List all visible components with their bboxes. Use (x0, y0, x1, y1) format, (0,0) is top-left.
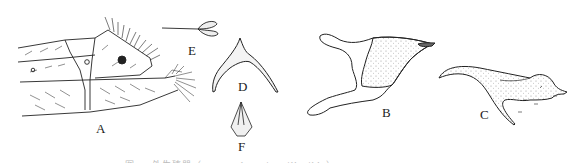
panel-label-e: E (188, 44, 196, 57)
panel-label-b: B (382, 106, 391, 119)
figure-drawings (0, 0, 583, 163)
panel-c-drawing (439, 66, 567, 125)
panel-label-a: A (96, 122, 105, 135)
figure-plate: A B C D E F 图 — 外生殖器（truncated caption, … (0, 0, 583, 163)
panel-f-drawing (231, 102, 252, 136)
figure-caption: 图 — 外生殖器（truncated caption, illegible） (125, 158, 465, 163)
panel-b-drawing (308, 34, 435, 115)
panel-label-d: D (238, 80, 247, 93)
panel-label-f: F (238, 140, 245, 153)
panel-a-drawing (18, 17, 196, 116)
panel-label-c: C (480, 108, 489, 121)
panel-e-drawing (162, 21, 218, 36)
